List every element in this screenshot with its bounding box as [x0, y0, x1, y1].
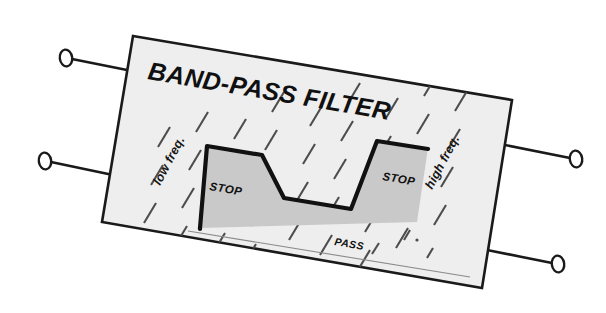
terminal-input-bottom[interactable] — [38, 152, 53, 170]
terminal-input-top[interactable] — [59, 49, 74, 67]
diagram-canvas: BAND-PASS FILTER low freq. high freq. ST… — [0, 0, 606, 313]
terminal-output-bottom[interactable] — [551, 255, 566, 273]
lead-output-bottom — [487, 250, 552, 263]
band-pass-filter-figure: BAND-PASS FILTER low freq. high freq. ST… — [0, 0, 606, 313]
terminal-output-top[interactable] — [569, 150, 584, 168]
lead-output-top — [505, 145, 570, 158]
lead-input-bottom — [51, 162, 113, 175]
